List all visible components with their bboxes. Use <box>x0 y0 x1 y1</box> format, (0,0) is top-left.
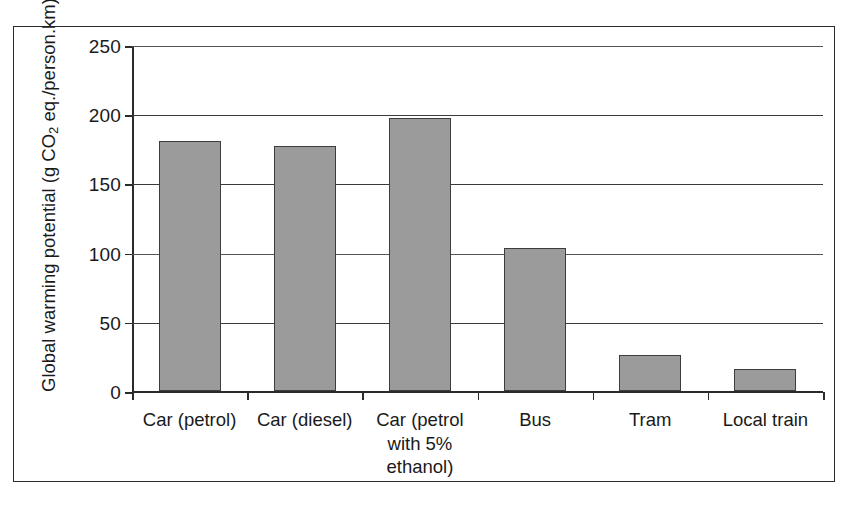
y-axis-title-before: Global warming potential (g CO <box>38 134 59 392</box>
y-tick-label-150: 150 <box>89 175 121 194</box>
bar <box>504 248 566 391</box>
y-tick-label-100: 100 <box>89 244 121 263</box>
bar <box>734 369 796 391</box>
x-category-label: Car (diesel) <box>247 408 362 432</box>
bar <box>274 146 336 391</box>
y-tick-label-200: 200 <box>89 106 121 125</box>
y-tick-250 <box>125 46 132 48</box>
plot-area: 050100150200250 Car (petrol)Car (diesel)… <box>132 46 823 392</box>
bar <box>389 118 451 391</box>
y-axis-title-subscript: 2 <box>46 127 61 134</box>
y-tick-100 <box>125 254 132 256</box>
x-tick-2 <box>362 392 364 400</box>
x-tick-6 <box>823 392 825 400</box>
x-category-label: Tram <box>593 408 708 432</box>
x-tick-5 <box>708 392 710 400</box>
y-axis-title-after: eq./person.km) <box>38 0 59 127</box>
y-axis-line <box>132 46 134 392</box>
y-tick-label-0: 0 <box>110 383 121 402</box>
x-tick-0 <box>132 392 134 400</box>
y-tick-200 <box>125 115 132 117</box>
x-tick-1 <box>247 392 249 400</box>
y-tick-label-50: 50 <box>99 313 121 332</box>
gridline-150 <box>132 184 823 185</box>
x-tick-3 <box>478 392 480 400</box>
gridline-50 <box>132 323 823 324</box>
gridline-250 <box>132 46 823 47</box>
y-axis-title: Global warming potential (g CO2 eq./pers… <box>36 46 62 392</box>
x-tick-4 <box>593 392 595 400</box>
gridline-200 <box>132 115 823 116</box>
figure-frame: Global warming potential (g CO2 eq./pers… <box>13 26 835 482</box>
y-tick-50 <box>125 323 132 325</box>
x-category-label: Car (petrol with 5% ethanol) <box>362 408 477 479</box>
y-tick-150 <box>125 184 132 186</box>
y-tick-0 <box>125 392 132 394</box>
x-category-label: Local train <box>708 408 823 432</box>
bar <box>619 355 681 391</box>
x-category-label: Bus <box>478 408 593 432</box>
x-category-label: Car (petrol) <box>132 408 247 432</box>
bar <box>159 141 221 392</box>
gridline-100 <box>132 254 823 255</box>
y-tick-label-250: 250 <box>89 37 121 56</box>
